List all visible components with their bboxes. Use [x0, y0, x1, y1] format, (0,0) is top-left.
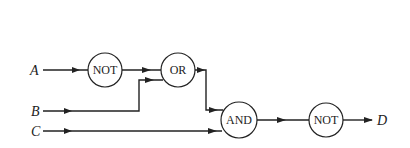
gate-and: AND: [221, 102, 257, 138]
arrow-icon: [64, 108, 72, 114]
arrow-icon: [364, 117, 373, 123]
wire-not1-to-or: [122, 67, 161, 73]
wire-not2-to-d: [343, 117, 373, 123]
wire-a-to-not1: [43, 67, 88, 73]
arrow-icon: [142, 67, 151, 73]
wire-or-to-and: [195, 67, 223, 113]
arrow-icon: [72, 67, 80, 73]
arrow-icon: [197, 67, 205, 73]
input-label-a: A: [29, 63, 39, 78]
gate-label: OR: [170, 63, 187, 77]
arrow-icon: [209, 107, 218, 113]
gate-or: OR: [161, 53, 195, 87]
arrow-icon: [277, 117, 286, 123]
input-label-c: C: [31, 124, 41, 139]
arrow-icon: [208, 128, 217, 134]
wire-c-to-and: [43, 128, 222, 134]
gate-label: NOT: [93, 63, 118, 77]
gate-label: NOT: [314, 113, 339, 127]
logic-circuit-diagram: A B C NOT: [0, 0, 410, 148]
gate-not-1: NOT: [88, 53, 122, 87]
gate-label: AND: [226, 113, 252, 127]
input-label-b: B: [31, 104, 40, 119]
wire-and-to-not2: [256, 117, 309, 123]
output-label-d: D: [376, 113, 387, 128]
gate-not-2: NOT: [309, 103, 343, 137]
arrow-icon: [145, 77, 154, 83]
arrow-icon: [64, 128, 72, 134]
